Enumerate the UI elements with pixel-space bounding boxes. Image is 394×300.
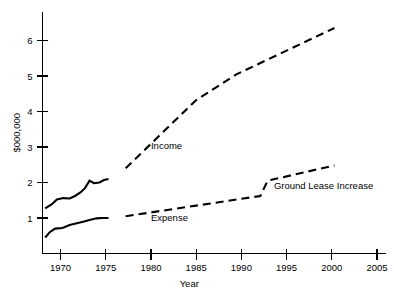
- series-line-expense-history: [45, 218, 108, 238]
- x-tick-label: 1980: [140, 262, 161, 273]
- chart-container: 12345619701975198019851990199520002005Ye…: [0, 0, 394, 300]
- series-annotation-income: Income: [151, 140, 182, 151]
- series-annotation-expense: Expense: [151, 212, 188, 223]
- x-tick-label: 2005: [366, 262, 387, 273]
- y-axis-title: $000,000: [11, 113, 22, 153]
- x-tick-label: 1975: [95, 262, 116, 273]
- y-tick-label: 2: [27, 177, 32, 188]
- x-tick-label: 1995: [276, 262, 297, 273]
- x-tick-label: 1985: [186, 262, 207, 273]
- y-tick-label: 1: [27, 213, 32, 224]
- series-line-income-history: [45, 179, 108, 208]
- x-tick-label: 1990: [231, 262, 252, 273]
- x-tick-label: 2000: [321, 262, 342, 273]
- series-annotation-ground-lease-increase: Ground Lease Increase: [274, 180, 373, 191]
- y-tick-label: 6: [27, 35, 32, 46]
- chart-axes: [43, 12, 387, 254]
- x-tick-label: 1970: [50, 262, 71, 273]
- y-tick-label: 3: [27, 142, 32, 153]
- y-tick-label: 4: [27, 106, 32, 117]
- y-tick-label: 5: [27, 71, 32, 82]
- line-chart: 12345619701975198019851990199520002005Ye…: [0, 0, 394, 300]
- x-axis-title: Year: [180, 278, 199, 289]
